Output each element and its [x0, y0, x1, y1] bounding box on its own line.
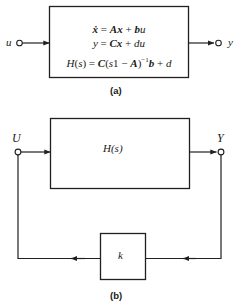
- output-label-y: y: [228, 37, 233, 48]
- feedback-wire-left: [18, 155, 101, 259]
- input-terminal-u: [17, 40, 23, 46]
- feedback-block-k: [101, 234, 146, 280]
- output-terminal-Y: [218, 149, 224, 155]
- output-terminal-y: [216, 40, 222, 46]
- feedback-wire-right: [146, 155, 221, 259]
- input-label-u: u: [6, 37, 12, 48]
- input-terminal-U: [15, 149, 21, 155]
- equation-output: y = Cx + du: [49, 38, 189, 49]
- caption-a: (a): [110, 86, 122, 96]
- figure-container: u y ẋ = Ax + bu y = Cx + du H(s) = C(s1…: [0, 0, 238, 307]
- equation-state: ẋ = Ax + bu: [49, 24, 189, 35]
- input-label-U: U: [12, 132, 21, 144]
- feedback-block-label: k: [118, 250, 123, 261]
- output-label-Y: Y: [217, 132, 224, 144]
- forward-block-label: H(s): [103, 143, 123, 154]
- equation-transfer: H(s) = C(s1 − A)−1b + d: [49, 57, 189, 69]
- caption-b: (b): [110, 291, 122, 301]
